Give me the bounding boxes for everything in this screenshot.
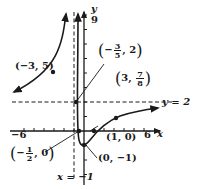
y-axis-label: y (91, 4, 97, 14)
x-tick-min: −6 (11, 130, 26, 140)
point-label-3-7over8: (3, 78) (115, 70, 151, 87)
x-axis-label: x (157, 129, 163, 139)
point-label-0-m1: (0, −1) (98, 153, 137, 163)
point-label-m3-5: (−3, 5) (15, 61, 54, 71)
vertical-asymptote-label: x = −1 (57, 172, 94, 182)
horizontal-asymptote-label: y = 2 (162, 97, 190, 107)
point-label-1-0: (1, 0) (106, 132, 136, 142)
left-branch-curve (14, 14, 66, 92)
x-tick-max: 6 (144, 130, 151, 140)
point-label-m1over2-0: (−12, 0) (10, 145, 54, 162)
point-label-m3over5-2: (−35, 2) (98, 42, 142, 59)
y-tick-9: 9 (91, 15, 98, 25)
